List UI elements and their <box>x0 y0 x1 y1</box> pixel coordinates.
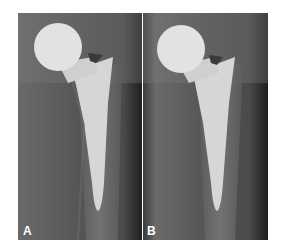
hip-prosthesis-image-b <box>143 13 268 240</box>
radiograph-panel-b: B <box>143 13 268 240</box>
radiograph-panel-a: A <box>18 13 142 240</box>
panel-label-a: A <box>23 225 32 237</box>
hip-prosthesis-image-a <box>18 13 142 240</box>
panel-label-b: B <box>147 225 156 237</box>
